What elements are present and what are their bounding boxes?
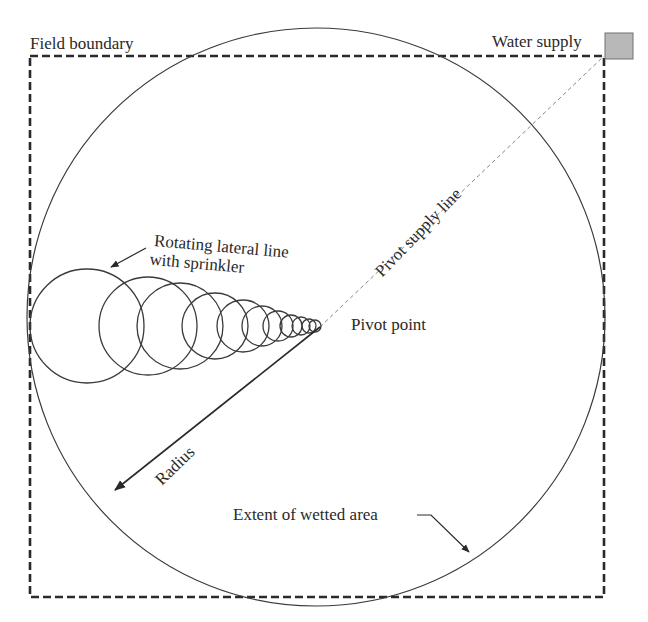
pivot-diagram — [0, 0, 648, 622]
field-boundary-label: Field boundary — [30, 35, 133, 52]
wetted-area-leader — [417, 515, 469, 552]
water-supply-box — [605, 33, 633, 59]
pivot-point-label: Pivot point — [351, 316, 426, 333]
sprinkler-circles — [30, 269, 321, 383]
extent-wetted-area-label: Extent of wetted area — [233, 506, 378, 523]
water-supply-label: Water supply — [492, 33, 582, 50]
lateral-line-arrow — [111, 248, 146, 267]
pivot-supply-line — [320, 56, 604, 327]
